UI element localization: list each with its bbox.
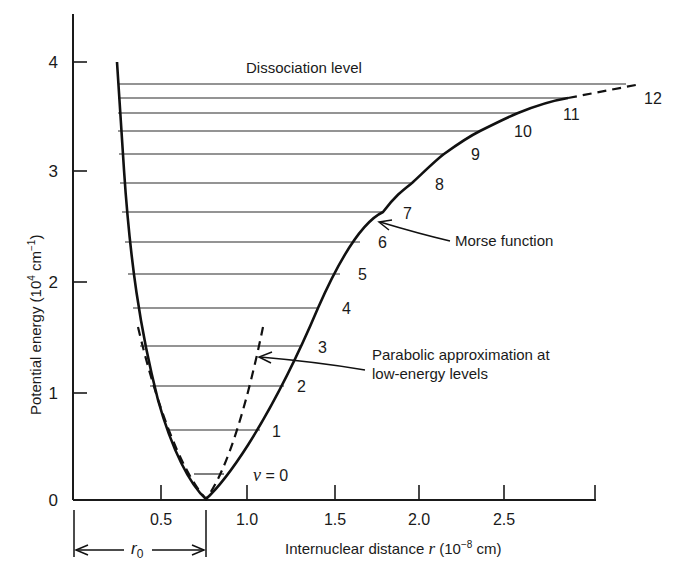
x-tick-label: 0.5 (150, 511, 172, 528)
x-tick-label: 2.5 (493, 511, 515, 528)
y-ticks: 4 3 2 1 0 (49, 53, 87, 510)
x-axis-title: Internuclear distance r (10−8 cm) (285, 539, 501, 558)
svg-text:Parabolic approximation at: Parabolic approximation at (372, 346, 550, 363)
r0-label: r0 (131, 539, 144, 561)
morse-potential-diagram: 4 3 2 1 0 0.5 1.0 1.5 2.0 2.5 Potential … (0, 0, 682, 586)
x-ticks: 0.5 1.0 1.5 2.0 2.5 (150, 485, 515, 528)
svg-text:11: 11 (563, 106, 580, 123)
svg-text:low-energy levels: low-energy levels (372, 365, 488, 382)
y-axis-title: Potential energy (104 cm−1) (26, 235, 44, 415)
r0-dimension: r0 (74, 510, 206, 561)
x-tick-label: 1.0 (236, 511, 258, 528)
morse-annotation: Morse function (379, 220, 553, 249)
morse-curve (117, 62, 568, 499)
x-tick-label: 2.0 (408, 511, 430, 528)
level-numbers: 1 2 3 4 5 6 7 8 9 10 11 12 (272, 90, 662, 440)
svg-text:5: 5 (358, 266, 367, 283)
svg-text:4: 4 (342, 300, 351, 317)
svg-text:7: 7 (403, 205, 412, 222)
x-tick-label: 1.5 (324, 511, 346, 528)
svg-text:1: 1 (272, 423, 281, 440)
y-tick-label: 4 (49, 53, 58, 72)
dissociation-label: Dissociation level (246, 59, 362, 76)
svg-text:10: 10 (514, 123, 532, 140)
svg-text:3: 3 (318, 339, 327, 356)
svg-text:Morse function: Morse function (455, 232, 553, 249)
svg-text:2: 2 (297, 378, 306, 395)
y-tick-label: 2 (49, 273, 58, 292)
morse-extrapolation (568, 84, 641, 98)
parabolic-annotation: Parabolic approximation at low-energy le… (259, 346, 550, 382)
vibrational-levels (118, 84, 626, 474)
svg-text:8: 8 (435, 176, 444, 193)
parabolic-approximation (138, 327, 263, 499)
y-tick-label: 1 (49, 384, 58, 403)
v0-label: v = 0 (253, 465, 288, 485)
y-tick-label: 3 (49, 162, 58, 181)
svg-text:6: 6 (378, 234, 387, 251)
svg-text:12: 12 (644, 90, 662, 107)
svg-text:9: 9 (471, 146, 480, 163)
y-tick-label: 0 (49, 491, 58, 510)
